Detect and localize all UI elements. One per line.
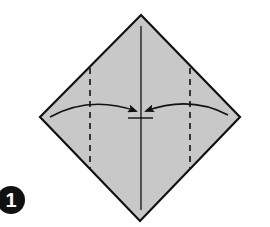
step-number-label: 1	[5, 189, 16, 212]
origami-diagram	[0, 0, 270, 227]
